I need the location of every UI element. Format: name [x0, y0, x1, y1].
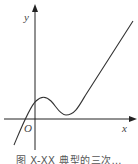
x-axis-arrow	[129, 116, 137, 122]
origin-label: O	[24, 122, 32, 134]
y-axis-arrow	[32, 4, 38, 12]
x-axis-label: x	[121, 122, 127, 134]
y-axis-label: y	[23, 11, 29, 23]
figure-caption: 图 X-XX 典型的三次…	[0, 152, 138, 164]
cubic-function-graph: y x O	[0, 0, 138, 164]
